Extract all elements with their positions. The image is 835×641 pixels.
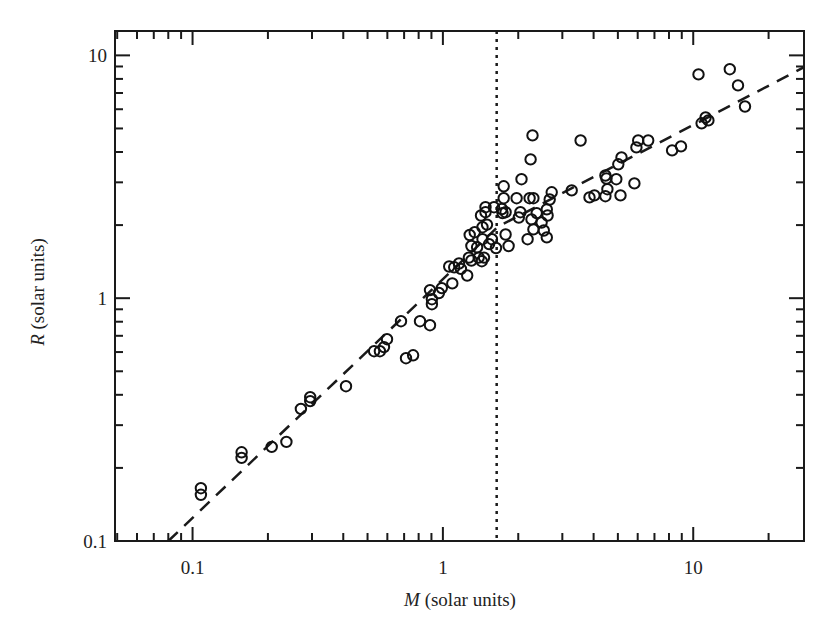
- y-tick-label: 0.1: [83, 531, 107, 552]
- data-point-circle: [500, 229, 510, 239]
- data-point-circle: [527, 130, 537, 140]
- plot-frame: [115, 31, 804, 541]
- data-points: [196, 64, 751, 500]
- data-point-circle: [733, 80, 743, 90]
- data-point-circle: [281, 437, 291, 447]
- data-point-circle: [631, 142, 641, 152]
- x-tick-label: 10: [684, 557, 703, 578]
- data-point-circle: [296, 404, 306, 414]
- data-point-circle: [522, 234, 532, 244]
- data-point-circle: [462, 270, 472, 280]
- plot-border: [115, 31, 804, 541]
- dashed-fit-curve: [168, 68, 803, 541]
- y-tick-label: 10: [88, 45, 107, 66]
- data-point-circle: [425, 320, 435, 330]
- x-tick-labels: 0.1110: [181, 557, 703, 578]
- data-point-circle: [600, 191, 610, 201]
- data-point-circle: [511, 193, 521, 203]
- y-tick-label: 1: [98, 288, 108, 309]
- data-point-circle: [499, 181, 509, 191]
- data-point-circle: [575, 135, 585, 145]
- fit-line-dashed: [168, 68, 803, 541]
- data-point-circle: [499, 193, 509, 203]
- data-point-circle: [725, 64, 735, 74]
- data-point-circle: [615, 190, 625, 200]
- data-point-circle: [676, 141, 686, 151]
- y-axis-label: R (solar units): [27, 238, 49, 347]
- data-point-circle: [516, 174, 526, 184]
- data-point-circle: [740, 101, 750, 111]
- data-point-circle: [547, 187, 557, 197]
- data-point-circle: [633, 135, 643, 145]
- data-point-circle: [341, 381, 351, 391]
- x-tick-label: 0.1: [181, 557, 205, 578]
- minor-ticks: [115, 31, 804, 541]
- y-tick-labels: 0.1110: [83, 45, 107, 552]
- data-point-circle: [447, 278, 457, 288]
- data-point-circle: [196, 490, 206, 500]
- x-tick-label: 1: [438, 557, 448, 578]
- data-point-circle: [693, 69, 703, 79]
- x-axis-label: M (solar units): [403, 589, 516, 611]
- data-point-circle: [643, 135, 653, 145]
- mass-radius-chart: 0.1110 0.1110 M (solar units) R (solar u…: [0, 0, 835, 641]
- data-point-circle: [602, 184, 612, 194]
- data-point-circle: [611, 174, 621, 184]
- data-point-circle: [503, 241, 513, 251]
- data-point-circle: [415, 316, 425, 326]
- data-point-circle: [525, 154, 535, 164]
- data-point-circle: [629, 178, 639, 188]
